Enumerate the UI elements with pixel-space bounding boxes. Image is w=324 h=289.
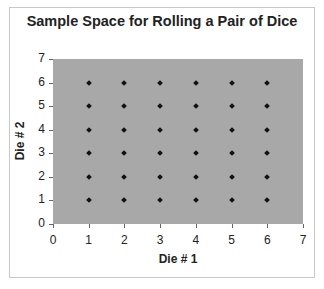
chart-title: Sample Space for Rolling a Pair of Dice [0, 13, 324, 29]
y-tick-mark [49, 153, 53, 154]
data-point [86, 198, 92, 204]
x-tick-mark [267, 224, 268, 228]
data-point [193, 103, 199, 109]
data-point [157, 150, 163, 156]
data-point [122, 174, 128, 180]
x-tick-label: 7 [293, 233, 313, 247]
x-tick-mark [232, 224, 233, 228]
x-tick-mark [303, 224, 304, 228]
x-tick-label: 0 [43, 233, 63, 247]
data-point [157, 103, 163, 109]
y-tick-mark [49, 177, 53, 178]
data-point [193, 150, 199, 156]
data-point [229, 150, 235, 156]
data-point [86, 80, 92, 86]
data-point [157, 80, 163, 86]
y-tick-label: 0 [25, 216, 45, 230]
x-axis-label: Die # 1 [0, 252, 324, 266]
y-tick-label: 3 [25, 145, 45, 159]
data-point [264, 174, 270, 180]
y-tick-label: 7 [25, 51, 45, 65]
x-tick-label: 6 [257, 233, 277, 247]
x-tick-label: 5 [222, 233, 242, 247]
x-tick-label: 4 [186, 233, 206, 247]
data-point [264, 198, 270, 204]
data-point [86, 150, 92, 156]
y-tick-mark [49, 200, 53, 201]
x-tick-mark [196, 224, 197, 228]
data-point [157, 127, 163, 133]
data-point [229, 174, 235, 180]
x-tick-label: 1 [79, 233, 99, 247]
y-tick-label: 1 [25, 192, 45, 206]
data-point [193, 174, 199, 180]
y-tick-label: 4 [25, 122, 45, 136]
y-tick-label: 6 [25, 75, 45, 89]
y-tick-mark [49, 59, 53, 60]
data-point [264, 127, 270, 133]
data-point [122, 80, 128, 86]
data-point [229, 80, 235, 86]
x-tick-label: 2 [114, 233, 134, 247]
x-tick-mark [124, 224, 125, 228]
x-tick-mark [89, 224, 90, 228]
data-point [86, 103, 92, 109]
y-tick-mark [49, 106, 53, 107]
data-point [229, 127, 235, 133]
y-axis-label: Die # 2 [13, 122, 27, 161]
data-point [122, 198, 128, 204]
data-point [122, 103, 128, 109]
data-point [122, 150, 128, 156]
data-point [229, 198, 235, 204]
data-point [157, 174, 163, 180]
x-tick-mark [53, 224, 54, 228]
x-tick-mark [160, 224, 161, 228]
data-point [264, 103, 270, 109]
y-tick-label: 5 [25, 98, 45, 112]
x-tick-label: 3 [150, 233, 170, 247]
data-point [264, 80, 270, 86]
data-point [157, 198, 163, 204]
data-point [193, 127, 199, 133]
data-point [86, 174, 92, 180]
data-point [86, 127, 92, 133]
y-tick-label: 2 [25, 169, 45, 183]
data-point [122, 127, 128, 133]
data-point [229, 103, 235, 109]
plot-area [53, 59, 303, 224]
y-tick-mark [49, 83, 53, 84]
data-point [193, 198, 199, 204]
data-point [264, 150, 270, 156]
y-tick-mark [49, 130, 53, 131]
data-point [193, 80, 199, 86]
